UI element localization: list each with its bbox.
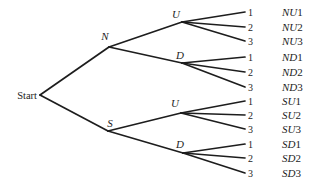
leaf-digit-SU1: 1	[248, 96, 253, 107]
leaf-digit-NU2: 2	[248, 22, 253, 33]
outcome-label-SD3: SD3	[282, 167, 301, 179]
leaf-digit-NU1: 1	[248, 7, 253, 18]
outcome-label-SD1: SD1	[282, 138, 301, 150]
outcome-label-NU1: NU1	[281, 6, 303, 18]
outcome-label-SU1: SU1	[282, 95, 301, 107]
branch-line-N-NU	[109, 22, 182, 47]
leaf-digit-SU2: 2	[248, 110, 253, 121]
leaf-digit-SU3: 3	[248, 124, 253, 135]
outcome-label-SU3: SU3	[282, 123, 301, 135]
outcome-label-SD2: SD2	[282, 152, 301, 164]
node-label-ND: D	[175, 49, 184, 61]
branch-line-ND-ND3	[182, 63, 245, 87]
outcome-label-NU2: NU2	[281, 21, 303, 33]
leaf-digit-SD1: 1	[248, 139, 253, 150]
branch-line-SD-SD1	[183, 144, 245, 153]
tree-diagram: StartNSUDUD1NU12NU23NU31ND12ND23ND31SU12…	[0, 0, 321, 188]
branch-line-ND-ND1	[182, 57, 245, 63]
node-label-SU: U	[171, 97, 180, 109]
branch-line-start-S	[40, 95, 108, 131]
node-label-NU: U	[172, 8, 181, 20]
node-label-SD: D	[175, 138, 184, 150]
branch-line-NU-NU1	[182, 12, 245, 22]
node-label-S: S	[107, 117, 113, 129]
node-label-start: Start	[17, 90, 37, 101]
outcome-label-ND2: ND2	[281, 66, 303, 78]
branch-line-SU-SU1	[181, 101, 245, 113]
outcome-label-ND3: ND3	[281, 81, 303, 93]
leaf-digit-ND1: 1	[248, 52, 253, 63]
branch-line-S-SD	[108, 131, 183, 153]
branch-line-start-N	[40, 47, 109, 95]
outcome-label-NU3: NU3	[281, 35, 303, 47]
leaf-digit-SD3: 3	[248, 168, 253, 179]
leaf-digit-ND3: 3	[248, 82, 253, 93]
leaf-digit-NU3: 3	[248, 36, 253, 47]
node-label-N: N	[100, 30, 109, 42]
branch-line-S-SU	[108, 113, 181, 131]
leaf-digit-SD2: 2	[248, 153, 253, 164]
tree-svg: StartNSUDUD1NU12NU23NU31ND12ND23ND31SU12…	[0, 0, 321, 188]
outcome-label-SU2: SU2	[282, 109, 301, 121]
outcome-label-ND1: ND1	[281, 51, 303, 63]
leaf-digit-ND2: 2	[248, 67, 253, 78]
branch-line-N-ND	[109, 47, 182, 63]
